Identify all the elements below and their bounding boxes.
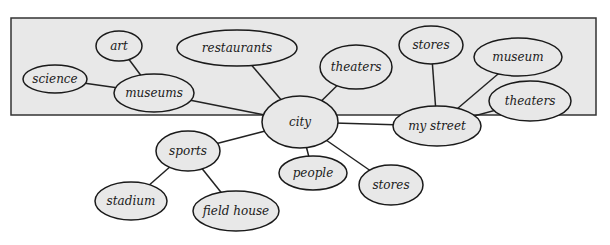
node-label: stores <box>372 178 409 192</box>
node-theaters1: theaters <box>320 45 392 89</box>
node-sports: sports <box>156 131 220 171</box>
node-label: theaters <box>505 94 556 108</box>
node-stores2: stores <box>399 26 463 64</box>
node-stores1: stores <box>359 165 423 205</box>
node-mystreet: my street <box>393 106 481 146</box>
node-label: sports <box>169 144 207 158</box>
node-label: field house <box>202 204 269 218</box>
node-art: art <box>96 31 142 61</box>
node-label: science <box>32 72 77 86</box>
node-label: art <box>110 39 128 53</box>
node-fieldhouse: field house <box>193 191 279 231</box>
node-label: my street <box>408 119 466 133</box>
node-label: theaters <box>331 60 382 74</box>
node-label: stadium <box>107 194 156 208</box>
node-restaurants: restaurants <box>177 30 297 66</box>
concept-web-diagram: citymuseumsartsciencerestaurantstheaters… <box>0 0 610 245</box>
node-city: city <box>262 96 338 148</box>
node-people: people <box>279 156 347 190</box>
node-label: museums <box>125 86 183 100</box>
node-stadium: stadium <box>95 182 167 220</box>
node-label: city <box>289 115 311 129</box>
node-science: science <box>23 65 87 93</box>
node-theaters2: theaters <box>489 81 571 121</box>
node-museums: museums <box>114 74 194 112</box>
node-label: people <box>293 166 334 180</box>
node-museum: museum <box>474 38 562 76</box>
node-label: restaurants <box>202 41 272 55</box>
node-label: museum <box>492 50 543 64</box>
node-label: stores <box>412 38 449 52</box>
